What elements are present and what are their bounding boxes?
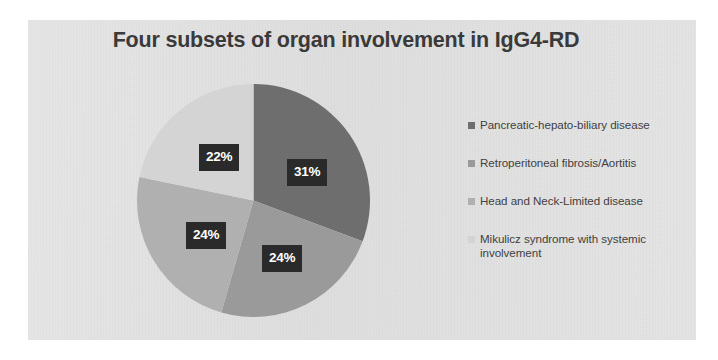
pie-chart <box>137 84 370 317</box>
legend-item[interactable]: Mikulicz syndrome with systemic involvem… <box>468 232 683 260</box>
pie-slice-group <box>137 84 370 317</box>
chart-legend: Pancreatic-hepato-biliary diseaseRetrope… <box>468 118 683 260</box>
legend-swatch-icon <box>468 198 475 205</box>
legend-item-label: Retroperitoneal fibrosis/Aortitis <box>480 156 636 170</box>
legend-item-label: Head and Neck-Limited disease <box>480 194 643 208</box>
legend-item[interactable]: Head and Neck-Limited disease <box>468 194 683 208</box>
slice-data-label: 22% <box>199 144 239 171</box>
legend-item-label: Mikulicz syndrome with systemic involvem… <box>480 232 683 260</box>
slice-data-label: 24% <box>186 222 226 249</box>
legend-item-label: Pancreatic-hepato-biliary disease <box>480 118 650 132</box>
figure-canvas: Four subsets of organ involvement in IgG… <box>0 0 718 360</box>
slice-data-label: 31% <box>287 159 327 186</box>
chart-title: Four subsets of organ involvement in IgG… <box>40 28 652 53</box>
legend-item[interactable]: Retroperitoneal fibrosis/Aortitis <box>468 156 683 170</box>
legend-swatch-icon <box>468 236 475 243</box>
legend-swatch-icon <box>468 122 475 129</box>
slice-data-label: 24% <box>262 245 302 272</box>
pie-svg <box>137 84 370 317</box>
legend-item[interactable]: Pancreatic-hepato-biliary disease <box>468 118 683 132</box>
legend-swatch-icon <box>468 160 475 167</box>
